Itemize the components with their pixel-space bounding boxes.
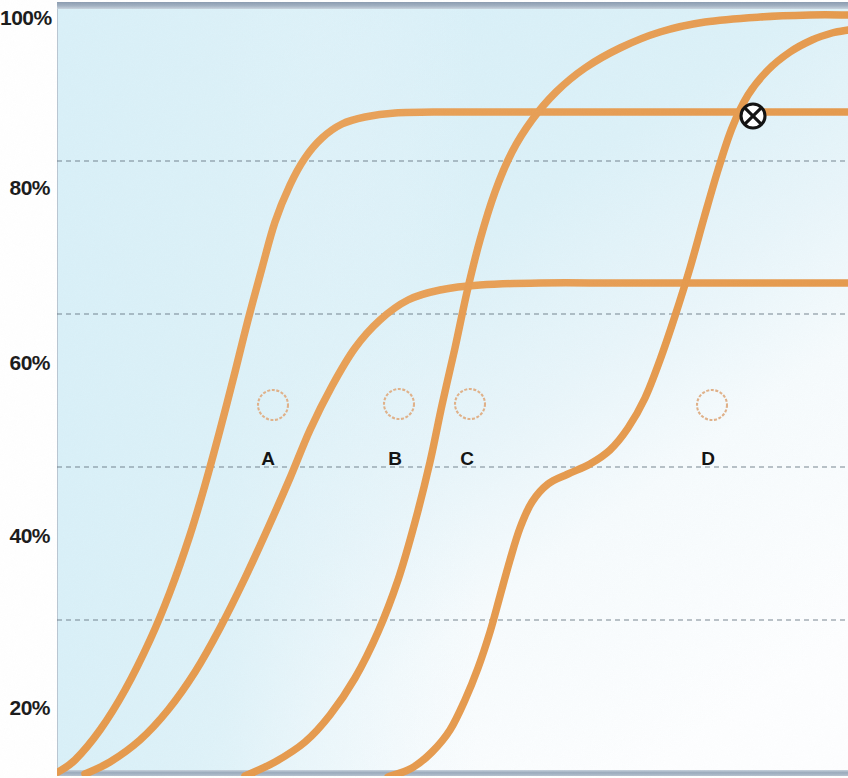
y-tick-label-80: 80%	[0, 176, 50, 200]
y-tick-label-20: 20%	[0, 696, 50, 720]
y-tick-label-40: 40%	[0, 524, 50, 548]
plot-background-left-wash	[57, 8, 477, 776]
point-label-d: D	[695, 448, 721, 470]
point-label-b: B	[382, 448, 408, 470]
point-label-a: A	[255, 448, 281, 470]
point-label-c-text: C	[460, 448, 474, 469]
y-tick-text: 80%	[9, 176, 50, 199]
plot-canvas	[57, 2, 848, 776]
circled-x-marker[interactable]	[741, 104, 765, 128]
plot-area: A B C D	[57, 2, 848, 776]
y-tick-text: 40%	[9, 524, 50, 547]
point-label-c: C	[454, 448, 480, 470]
point-label-d-text: D	[701, 448, 715, 469]
chart-figure: 100% 80% 60% 40% 20%	[0, 0, 848, 778]
point-label-a-text: A	[261, 448, 275, 469]
scan-edge-band-bottom	[57, 770, 848, 776]
y-tick-text: 60%	[9, 351, 50, 374]
y-tick-label-60: 60%	[0, 351, 50, 375]
scan-edge-band-top	[57, 2, 848, 9]
y-tick-text: 20%	[9, 696, 50, 719]
point-label-b-text: B	[388, 448, 402, 469]
y-tick-label-100: 100%	[0, 6, 50, 30]
y-tick-text: 100%	[0, 6, 52, 29]
